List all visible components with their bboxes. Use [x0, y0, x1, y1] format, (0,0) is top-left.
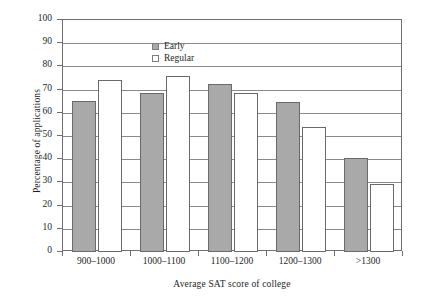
- y-axis-tick-label: 90: [16, 37, 52, 47]
- legend: Early Regular: [152, 41, 194, 65]
- x-axis-tick: [198, 251, 199, 256]
- legend-label-regular: Regular: [164, 53, 194, 64]
- y-axis-tick-label: 30: [16, 176, 52, 186]
- x-axis-tick-label: 900–1000: [62, 257, 130, 267]
- x-axis-tick: [266, 251, 267, 256]
- bar-regular-4: [370, 184, 394, 252]
- bar-early-3: [276, 102, 300, 252]
- y-axis-tick-label: 20: [16, 200, 52, 210]
- legend-swatch-early-icon: [152, 43, 159, 50]
- bar-early-4: [344, 158, 368, 252]
- y-axis-tick-label: 0: [16, 246, 52, 256]
- x-axis-tick-label: 1000–1100: [130, 257, 198, 267]
- y-axis-tick-label: 70: [16, 84, 52, 94]
- gridline: [63, 43, 401, 44]
- bar-regular-1: [166, 76, 190, 252]
- legend-item-early: Early: [152, 41, 194, 52]
- x-axis-tick: [334, 251, 335, 256]
- y-axis-tick-label: 50: [16, 130, 52, 140]
- bar-chart-figure: Percentage of applications Average SAT s…: [0, 0, 425, 302]
- legend-item-regular: Regular: [152, 53, 194, 64]
- bar-early-2: [208, 84, 232, 252]
- x-axis-tick-label: 1200–1300: [266, 257, 334, 267]
- x-axis-tick: [62, 251, 63, 256]
- bar-regular-0: [98, 80, 122, 252]
- legend-label-early: Early: [164, 41, 185, 52]
- x-axis-tick: [402, 251, 403, 256]
- bar-early-0: [72, 101, 96, 252]
- y-axis-tick-label: 100: [16, 14, 52, 24]
- bar-early-1: [140, 93, 164, 252]
- y-axis-tick-label: 60: [16, 107, 52, 117]
- bar-regular-3: [302, 127, 326, 252]
- legend-swatch-regular-icon: [152, 55, 159, 62]
- bar-regular-2: [234, 93, 258, 252]
- y-axis-tick-label: 40: [16, 153, 52, 163]
- x-axis-title: Average SAT score of college: [62, 279, 402, 289]
- y-axis-title: Percentage of applications: [32, 41, 42, 241]
- plot-area: Early Regular: [62, 19, 402, 251]
- y-axis-tick-label: 80: [16, 60, 52, 70]
- x-axis-tick-label: >1300: [334, 257, 402, 267]
- x-axis-tick-label: 1100–1200: [198, 257, 266, 267]
- x-axis-tick: [130, 251, 131, 256]
- y-axis-tick-label: 10: [16, 223, 52, 233]
- gridline: [63, 66, 401, 67]
